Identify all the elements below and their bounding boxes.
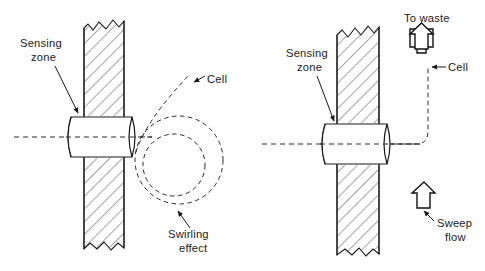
sensing-zone-label-left: Sensing zone	[20, 37, 78, 113]
swirling-effect-line1: Swirling	[168, 228, 209, 240]
swirling-effect-label: Swirling effect	[168, 211, 209, 254]
cell-label-left-text: Cell	[207, 73, 227, 85]
cell-leader-left	[194, 76, 205, 82]
sensing-zone-label-right-line2: zone	[297, 61, 322, 73]
left-panel-swirling-effect: Sensing zone Cell Swirling effect	[14, 18, 227, 254]
sensing-zone-label-left-line2: zone	[31, 51, 56, 63]
right-panel-sweep-flow: To waste Cell Sensing zone Sweep flow	[262, 12, 472, 260]
sensing-zone-leader-right	[317, 76, 334, 121]
cell-path-right	[390, 68, 428, 144]
sweep-flow-line1: Sweep	[437, 217, 472, 229]
cell-label-right: Cell	[432, 61, 468, 73]
swirling-effect-line2: effect	[179, 242, 208, 254]
cell-label-left: Cell	[194, 73, 227, 85]
cell-label-right-text: Cell	[448, 61, 468, 73]
sweep-flow-leader	[424, 211, 434, 221]
sensing-zone-diagram: Sensing zone Cell Swirling effect	[0, 0, 485, 271]
swirling-effect-path	[135, 74, 223, 204]
sensing-zone-label-right-line1: Sensing	[286, 47, 328, 59]
sweep-flow-arrow-shape	[412, 182, 435, 208]
figure-canvas: Sensing zone Cell Swirling effect	[0, 0, 485, 271]
sensing-zone-label-right: Sensing zone	[286, 47, 334, 121]
to-waste-label: To waste	[404, 12, 450, 24]
sweep-flow-group: Sweep flow	[412, 182, 472, 243]
sensing-zone-label-left-line1: Sensing	[20, 37, 62, 49]
swirling-effect-leader	[178, 211, 190, 228]
to-waste-group: To waste	[404, 12, 450, 53]
sweep-flow-line2: flow	[445, 231, 466, 243]
sensing-zone-leader-left	[55, 66, 78, 113]
